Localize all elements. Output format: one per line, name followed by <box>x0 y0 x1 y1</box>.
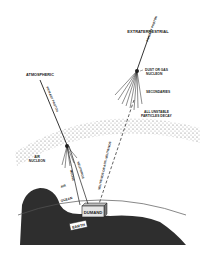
dumand-label: DUMAND <box>84 210 103 215</box>
atmospheric-label: ATMOSPHERIC <box>26 73 54 77</box>
cosmic-ray-neutrino-diagram: DUMAND EARTH EXTRATERRESTRIAL PRIMARY PR… <box>0 0 202 261</box>
air-label: AIR <box>60 183 67 189</box>
unstable-label-line2: PARTICLES DECAY <box>141 114 172 118</box>
neutrinos-label: NEUTRINOS <box>76 161 85 179</box>
dumand-detector: DUMAND <box>82 203 107 217</box>
extraterrestrial-neutrino-line <box>99 100 134 204</box>
secondaries-label: SECONDARIES <box>146 90 171 94</box>
secondaries-shower <box>115 71 142 110</box>
dust-label-line2: NUCLEON <box>146 72 163 76</box>
dust-pointer <box>140 70 143 71</box>
air-nucleon-label-line2: NUCLEON <box>29 159 46 163</box>
muons-label: MUONS <box>69 169 75 181</box>
neutrinos-or-anti-label: NEUTRINOS OR ANTI-NEUTRINOS <box>97 141 112 190</box>
